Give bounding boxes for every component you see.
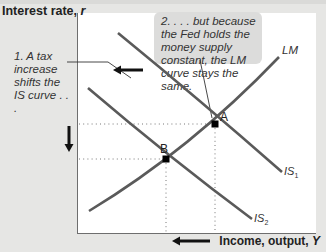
is1-label-text: IS xyxy=(284,165,294,177)
lm-label: LM xyxy=(282,44,298,56)
point-a-label: A xyxy=(220,110,228,124)
is1-curve xyxy=(118,33,282,172)
is2-label: IS2 xyxy=(254,212,268,226)
is2-label-text: IS xyxy=(254,212,264,224)
is1-label: IS1 xyxy=(284,165,298,179)
point-b-marker xyxy=(163,156,170,163)
point-b-label: B xyxy=(160,142,168,156)
point-a-marker xyxy=(212,121,219,128)
is-lm-diagram xyxy=(0,0,326,252)
is2-subscript: 2 xyxy=(264,219,268,226)
guide-lines xyxy=(79,124,215,233)
is1-subscript: 1 xyxy=(294,172,298,179)
rate-down-arrow-head xyxy=(65,144,74,152)
income-left-arrow-head xyxy=(172,237,180,246)
lm-curve xyxy=(89,57,279,211)
